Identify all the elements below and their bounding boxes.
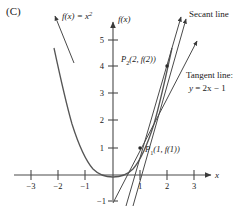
- function-label-text: f(x) = x: [62, 11, 89, 21]
- tangent-line-equation: y = 2x − 1: [188, 83, 226, 93]
- point-p1-label: P1(1, f(1)): [144, 144, 180, 156]
- tangent-eq-rest: = 2x − 1: [193, 83, 226, 93]
- y-tick-label-5: 5: [100, 35, 104, 45]
- x-tick-label-neg1: −1: [80, 181, 89, 191]
- x-axis-label: x: [214, 170, 219, 180]
- secant-line-outer: [126, 17, 181, 206]
- x-tick-label-neg3: −3: [26, 181, 35, 191]
- x-tick-label-3: 3: [192, 181, 196, 191]
- point-p1-marker: [138, 146, 141, 149]
- x-tick-label-neg2: −2: [53, 181, 62, 191]
- figure-panel-c: (C): [0, 0, 244, 214]
- tangent-line-label: Tangent line:: [186, 70, 233, 80]
- function-label-exponent: 2: [89, 10, 93, 17]
- p1-rest: (1, f(1)): [153, 144, 180, 154]
- y-tick-label-neg1: −1: [97, 196, 106, 206]
- y-tick-label-1: 1: [100, 143, 104, 153]
- y-tick-label-3: 3: [100, 88, 104, 98]
- secant-line-label: Secant line: [189, 9, 229, 19]
- p2-rest: (2, f(2)): [129, 54, 156, 64]
- function-label: f(x) = x2: [62, 10, 93, 21]
- y-axis-label: f(x): [118, 14, 131, 24]
- point-p2-marker: [165, 64, 168, 67]
- point-p2-label: P2(2, f(2)): [120, 54, 156, 66]
- function-label-leader: [55, 16, 74, 63]
- x-tick-label-1: 1: [138, 181, 142, 191]
- x-tick-label-2: 2: [165, 181, 169, 191]
- graph-canvas: f(x) x f(x) = x2 Secant line Tangent lin…: [0, 0, 244, 214]
- y-tick-label-2: 2: [100, 115, 104, 125]
- y-tick-label-4: 4: [100, 61, 105, 71]
